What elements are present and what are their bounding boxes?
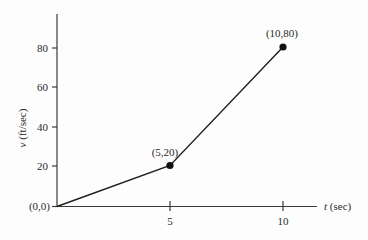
- data-point-10-80: [279, 43, 286, 50]
- x-tick-label-5: 5: [167, 215, 173, 227]
- x-axis-label: t (sec): [324, 200, 352, 213]
- y-tick-label-20: 20: [37, 160, 49, 172]
- point-label-10-80: (10,80): [266, 27, 298, 40]
- y-tick-label-80: 80: [37, 42, 49, 54]
- x-tick-label-10: 10: [278, 215, 290, 227]
- y-axis-label: v (ft/sec): [16, 108, 29, 147]
- velocity-line: [57, 47, 283, 207]
- y-axis-unit: (ft/sec): [16, 108, 29, 142]
- data-point-5-20: [166, 162, 173, 169]
- origin-label: (0,0): [29, 200, 50, 213]
- y-tick-label-60: 60: [37, 81, 49, 93]
- chart-container: 20 40 60 80 (0,0) 5 10 t (sec) v (ft/sec…: [0, 0, 368, 240]
- y-tick-label-40: 40: [37, 121, 49, 133]
- x-axis-unit: (sec): [327, 200, 351, 213]
- velocity-time-chart: 20 40 60 80 (0,0) 5 10 t (sec) v (ft/sec…: [0, 0, 368, 240]
- point-label-5-20: (5,20): [152, 146, 179, 159]
